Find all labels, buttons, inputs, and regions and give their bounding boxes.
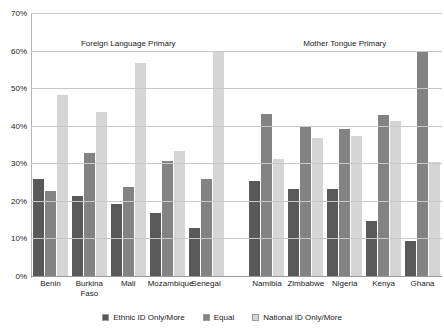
category-label: Nigeria [325, 279, 364, 289]
bar [33, 179, 44, 277]
category-label: Mali [109, 279, 148, 289]
bar [273, 159, 284, 277]
legend-swatch-icon [252, 314, 259, 321]
gridline [31, 201, 442, 202]
category-axis-labels: BeninBurkina FasoMaliMozambiqueSenegalNa… [31, 279, 442, 307]
x-axis-line [31, 276, 442, 277]
bar [378, 115, 389, 277]
bar [111, 204, 122, 277]
legend-label: Equal [214, 313, 234, 322]
bar [300, 127, 311, 277]
legend-label: Ethnic ID Only/More [113, 313, 185, 322]
category-label: Burkina Faso [70, 279, 109, 299]
category-label: Namibia [248, 279, 287, 289]
grouped-bar-chart: 0%10%20%30%40%50%60%70% Foreign Language… [0, 0, 444, 336]
y-axis: 0%10%20%30%40%50%60%70% [0, 0, 30, 290]
gridline [31, 238, 442, 239]
category-label: Senegal [187, 279, 226, 289]
gridline [31, 88, 442, 89]
bar [390, 121, 401, 277]
bar [327, 189, 338, 277]
bar [201, 179, 212, 277]
bar [189, 228, 200, 277]
y-axis-tick-label: 0% [15, 273, 27, 281]
legend-item[interactable]: Equal [203, 313, 234, 322]
y-axis-tick-label: 30% [11, 160, 27, 168]
y-axis-tick-label: 70% [11, 10, 27, 18]
legend-swatch-icon [203, 314, 210, 321]
gridline [31, 13, 442, 14]
y-axis-tick-label: 20% [11, 198, 27, 206]
bar [351, 136, 362, 277]
category-label: Ghana [403, 279, 442, 289]
bar [57, 95, 68, 277]
category-label: Zimbabwe [286, 279, 325, 289]
category-label: Benin [31, 279, 70, 289]
bar [162, 161, 173, 277]
y-axis-tick-label: 50% [11, 85, 27, 93]
bar [339, 129, 350, 277]
chart-legend: Ethnic ID Only/MoreEqualNational ID Only… [0, 313, 444, 322]
bar [429, 162, 440, 277]
bar [150, 213, 161, 277]
panel-title-mother-tongue-primary: Mother Tongue Primary [295, 39, 395, 48]
y-axis-tick-label: 60% [11, 48, 27, 56]
legend-swatch-icon [102, 314, 109, 321]
plot-area [31, 14, 442, 277]
y-axis-tick-label: 40% [11, 123, 27, 131]
legend-item[interactable]: National ID Only/More [252, 313, 342, 322]
gridline [31, 126, 442, 127]
legend-label: National ID Only/More [263, 313, 342, 322]
bar [96, 112, 107, 277]
panel-title-foreign-language-primary: Foreign Language Primary [78, 39, 178, 48]
bar [366, 221, 377, 277]
y-axis-tick-label: 10% [11, 235, 27, 243]
category-label: Mozambique [148, 279, 187, 289]
bar [249, 181, 260, 277]
bar [135, 63, 146, 277]
bar [84, 153, 95, 277]
bar [405, 241, 416, 277]
bar [174, 151, 185, 277]
bar [261, 114, 272, 277]
bar [72, 196, 83, 277]
bar [288, 189, 299, 277]
bar [45, 191, 56, 277]
gridline [31, 51, 442, 52]
category-label: Kenya [364, 279, 403, 289]
gridline [31, 163, 442, 164]
legend-item[interactable]: Ethnic ID Only/More [102, 313, 185, 322]
bar [312, 138, 323, 277]
